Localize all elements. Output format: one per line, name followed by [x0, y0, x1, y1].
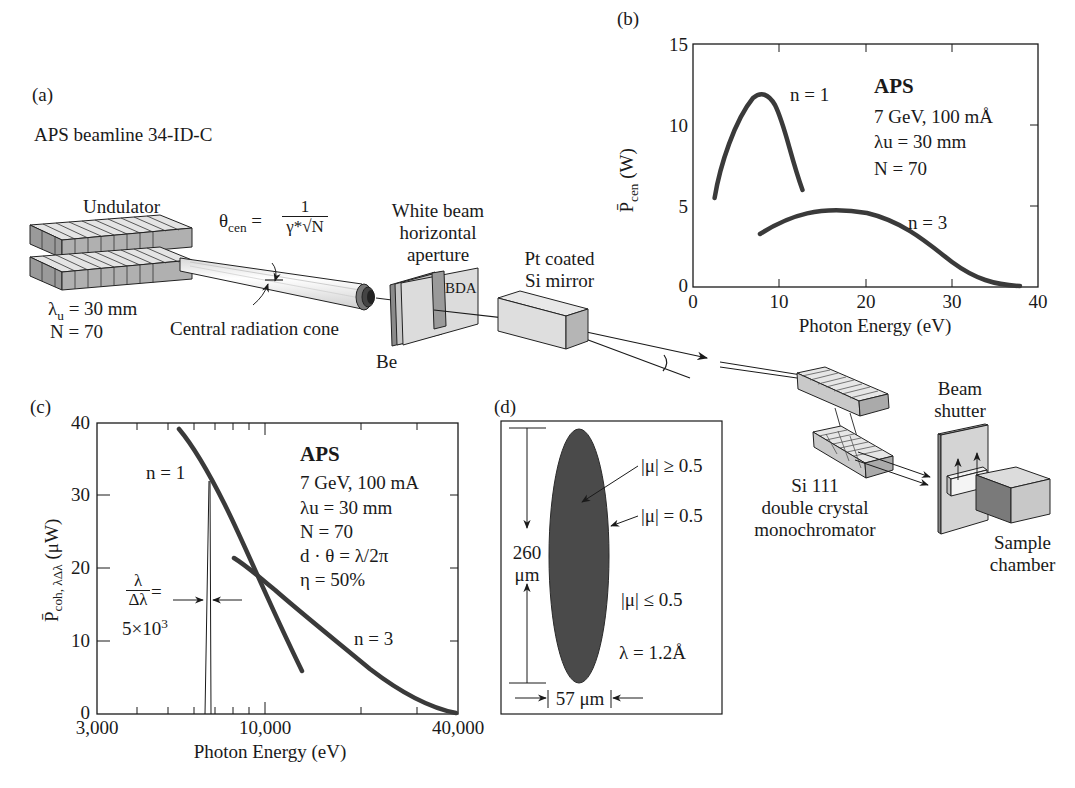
chart-c-label-n1: n = 1 — [146, 462, 185, 484]
chart-b-annotation-line1: 7 GeV, 100 mÅ — [874, 106, 993, 128]
resolution-denominator: Δλ — [126, 591, 150, 609]
chart-b-xtick-10: 10 — [766, 291, 792, 313]
pt-coated-si-mirror — [498, 291, 588, 349]
panel-c-tag: (c) — [30, 396, 51, 418]
width-dimension-label: 57 μm — [549, 688, 611, 710]
undulator-periods-label: N = 70 — [50, 321, 103, 343]
central-radiation-cone — [180, 258, 375, 310]
series-n3 — [760, 210, 1020, 286]
resolution-value: 5×103 — [122, 613, 168, 640]
chart-c-ytick-10: 10 — [66, 630, 90, 652]
resolution-numerator: λ — [126, 572, 150, 591]
undulator-label: Undulator — [83, 196, 160, 218]
chart-c-annotation-line2: λu = 30 mm — [300, 497, 392, 519]
panel-a-title: APS beamline 34-ID-C — [34, 124, 212, 146]
chart-b-ytick-5: 5 — [666, 196, 688, 218]
chart-c-xtick-10000: 10,000 — [231, 717, 299, 739]
panel-d-tag: (d) — [494, 396, 516, 418]
chart-c-ytick-20: 20 — [66, 557, 90, 579]
chart-b-ylabel: P̄cen (W) — [616, 148, 645, 212]
chart-c-ytick-40: 40 — [66, 412, 90, 434]
panel-a-tag: (a) — [32, 84, 53, 106]
monochromator-label: Si 111 double crystal monochromator — [740, 475, 890, 541]
be-window-label: Be — [376, 351, 397, 373]
coherence-outside-label: |μ| ≤ 0.5 — [621, 589, 682, 611]
resolution-bandwidth-line — [205, 481, 211, 714]
chart-c-label-n3: n = 3 — [354, 628, 393, 650]
chart-c-annotation-line3: N = 70 — [300, 521, 353, 543]
resolution-equals: = — [151, 581, 162, 603]
mirror-label: Pt coated Si mirror — [512, 248, 607, 292]
double-crystal-monochromator — [797, 367, 893, 478]
theta-formula-numerator: 1 — [282, 198, 328, 217]
theta-formula-denominator: γ*√N — [282, 218, 328, 236]
chart-c-annotation-line5: η = 50% — [300, 569, 365, 591]
chart-b-xtick-30: 30 — [939, 291, 965, 313]
chart-c-xlabel: Photon Energy (eV) — [175, 741, 365, 763]
sample-chamber-label: Sample chamber — [975, 532, 1070, 576]
chart-c-ytick-30: 30 — [66, 484, 90, 506]
sample-chamber — [976, 467, 1050, 523]
chart-b-xtick-40: 40 — [1025, 291, 1051, 313]
chart-b-annotation-title: APS — [874, 75, 914, 97]
central-cone-label: Central radiation cone — [170, 318, 339, 340]
wavelength-label: λ = 1.2Å — [619, 642, 686, 664]
chart-b-annotation-line3: N = 70 — [874, 158, 927, 180]
chart-c-xtick-40000: 40,000 — [421, 717, 495, 739]
chart-c-annotation-title: APS — [300, 443, 340, 465]
chart-b-xtick-0: 0 — [683, 291, 703, 313]
bda-label: BDA — [445, 280, 477, 297]
coherence-inside-label: |μ| ≥ 0.5 — [641, 455, 702, 477]
chart-b — [693, 44, 1038, 287]
series-n1 — [715, 94, 803, 198]
beam-shutter-label: Beam shutter — [925, 378, 995, 422]
aperture-label: White beam horizontal aperture — [378, 200, 498, 266]
chart-b-label-n3: n = 3 — [908, 212, 947, 234]
height-dimension-unit: μm — [508, 564, 546, 586]
coherence-edge-label: |μ| = 0.5 — [641, 505, 703, 527]
chart-c-annotation-line4: d · θ = λ/2π — [300, 545, 388, 567]
beam-line — [376, 298, 392, 300]
chart-b-ytick-10: 10 — [666, 115, 688, 137]
series-n1 — [179, 429, 302, 671]
chart-b-label-n1: n = 1 — [790, 84, 829, 106]
chart-b-annotation-line2: λu = 30 mm — [874, 131, 966, 153]
chart-c-xtick-3000: 3,000 — [67, 717, 127, 739]
chart-b-xlabel: Photon Energy (eV) — [780, 315, 970, 337]
chart-b-ytick-15: 15 — [666, 34, 688, 56]
chart-c-ylabel: P̄coh, λΔλ (μW) — [41, 480, 70, 660]
panel-b-tag: (b) — [617, 8, 639, 30]
chart-c-annotation-line1: 7 GeV, 100 mA — [300, 472, 419, 494]
chart-b-xtick-20: 20 — [853, 291, 879, 313]
undulator-magnet-array — [30, 215, 192, 290]
theta-cen-formula: θcen = — [219, 210, 262, 239]
height-dimension-value: 260 — [508, 542, 546, 564]
